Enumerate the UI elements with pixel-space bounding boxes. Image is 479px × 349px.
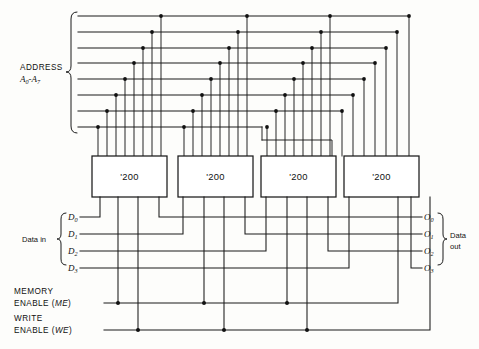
data-in-line-d3 bbox=[80, 197, 349, 268]
write-enable-line2: ENABLE (WE) bbox=[14, 326, 72, 335]
chip-4[interactable]: '200 bbox=[344, 156, 419, 197]
we-junction-chip3 bbox=[305, 328, 309, 332]
signal-d0: D0 bbox=[67, 212, 79, 223]
memory-enable-line2: ENABLE (ME) bbox=[14, 299, 71, 308]
chip-2[interactable]: '200 bbox=[178, 156, 253, 197]
memory-enable-line1: MEMORY bbox=[14, 287, 53, 296]
memory-enable-label: MEMORY ENABLE (ME) bbox=[14, 287, 71, 308]
address-range-label: A0-A7 bbox=[19, 74, 41, 85]
schematic-canvas: ADDRESS A0-A7 bbox=[0, 0, 479, 349]
signal-d1: D1 bbox=[67, 229, 78, 240]
signal-o2: O2 bbox=[424, 246, 434, 257]
we-junction-chip2 bbox=[222, 328, 226, 332]
chip-3-label: '200 bbox=[289, 171, 308, 182]
signal-o1: O1 bbox=[424, 229, 434, 240]
chip-1-label: '200 bbox=[120, 171, 139, 182]
address-label-text: ADDRESS bbox=[20, 63, 63, 72]
data-in-line-d2 bbox=[80, 197, 266, 251]
data-in-line-d1 bbox=[80, 197, 183, 234]
data-out-line-o1 bbox=[245, 197, 422, 234]
data-out-signal-labels: O0 O1 O2 O3 bbox=[424, 212, 435, 274]
chip-4-label: '200 bbox=[372, 171, 391, 182]
data-out-line-o2 bbox=[328, 197, 422, 251]
chip2-address-drops bbox=[182, 14, 249, 156]
me-junction-chip1 bbox=[116, 301, 120, 305]
me-junction-chip3 bbox=[285, 301, 289, 305]
data-out-line-o0 bbox=[159, 197, 422, 217]
data-in-signal-labels: D0 D1 D2 D3 bbox=[67, 212, 79, 274]
chip1-address-drops bbox=[96, 14, 163, 156]
chip-3[interactable]: '200 bbox=[261, 156, 336, 197]
me-junction-chip2 bbox=[202, 301, 206, 305]
chip-1[interactable]: '200 bbox=[92, 156, 167, 197]
signal-d2: D2 bbox=[67, 246, 78, 257]
address-bus-label: ADDRESS A0-A7 bbox=[19, 63, 63, 85]
data-out-label-line1: Data bbox=[450, 231, 467, 240]
we-junction-chip1 bbox=[136, 328, 140, 332]
schematic-diagram: ADDRESS A0-A7 bbox=[0, 0, 479, 349]
data-in-label-text: Data in bbox=[22, 235, 46, 244]
write-enable-label: WRITE ENABLE (WE) bbox=[14, 314, 72, 335]
data-out-line-o3 bbox=[411, 197, 422, 268]
signal-d3: D3 bbox=[67, 263, 78, 274]
signal-o3: O3 bbox=[424, 263, 434, 274]
chip4-address-drops bbox=[262, 14, 411, 156]
data-out-label-line2: out bbox=[450, 242, 461, 251]
data-in-line-d0 bbox=[80, 197, 100, 217]
data-out-group-label: Data out bbox=[438, 213, 467, 265]
write-enable-line1: WRITE bbox=[14, 314, 43, 323]
chip-2-label: '200 bbox=[206, 171, 225, 182]
address-horizontal-lines bbox=[78, 16, 409, 127]
chip3-address-drops bbox=[265, 14, 332, 156]
data-in-group-label: Data in bbox=[22, 213, 66, 265]
signal-o0: O0 bbox=[424, 212, 435, 223]
address-bus-brace bbox=[66, 12, 77, 133]
